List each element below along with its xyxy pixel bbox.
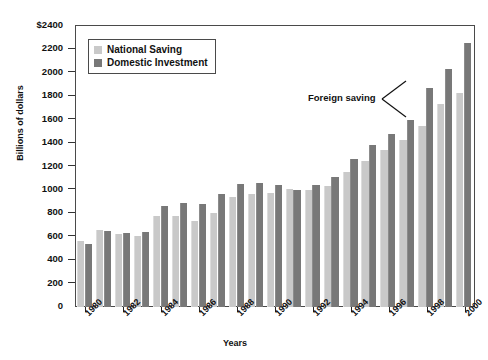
y-axis-tick-label: 1600 [42,113,63,125]
bar [153,216,160,307]
y-axis-tick-mark [68,235,75,236]
y-axis-tick-label: 600 [47,230,63,242]
bar-group [303,26,322,307]
bar [388,134,395,307]
y-axis-tick: 1600 [0,113,75,125]
y-axis-tick-mark [68,165,75,166]
annotation-foreign-saving: Foreign saving [308,92,376,103]
legend-label: National Saving [107,44,182,55]
y-axis-tick-label: $2400 [37,19,63,31]
bar [256,183,263,307]
bar [312,185,319,307]
y-axis-tick-mark [68,95,75,96]
bar [96,230,103,307]
bar [161,206,168,307]
bar [407,120,414,307]
y-axis-tick: 2000 [0,66,75,78]
y-axis-tick: 800 [0,206,75,218]
bar [418,126,425,307]
bar [210,213,217,307]
y-axis-tick-label: 1200 [42,160,63,172]
bar-group [247,26,266,307]
bar [350,159,357,307]
y-axis-tick: $2400 [0,19,75,31]
bar [286,189,293,307]
bar-group [436,26,455,307]
y-axis-tick: 2200 [0,42,75,54]
bar [267,193,274,307]
y-axis-tick: 1800 [0,89,75,101]
bar [172,216,179,307]
bar [237,184,244,307]
bar-group [341,26,360,307]
bar [180,203,187,307]
bar [229,197,236,307]
y-axis-tick-mark [68,282,75,283]
y-axis-tick-label: 2000 [42,66,63,78]
bar [218,194,225,307]
bar [199,204,206,307]
bar [464,43,471,307]
y-axis-tick: 200 [0,277,75,289]
bar [142,232,149,307]
y-axis-tick: 600 [0,230,75,242]
bar [380,150,387,307]
y-axis-tick-label: 1400 [42,136,63,148]
y-axis-tick-label: 1000 [42,183,63,195]
chart-legend: National Saving Domestic Investment [88,39,216,74]
legend-item-domestic-investment: Domestic Investment [94,56,208,69]
bar-group [360,26,379,307]
y-axis-tick-label: 0 [58,300,63,312]
legend-item-national-saving: National Saving [94,43,208,56]
bar [305,190,312,307]
y-axis-tick-mark [68,212,75,213]
y-axis-tick: 1200 [0,160,75,172]
bar [191,221,198,307]
bar [324,186,331,307]
y-axis-tick: 1400 [0,136,75,148]
legend-swatch-icon [94,59,102,67]
bar-group [322,26,341,307]
y-axis-tick-label: 1800 [42,89,63,101]
bar-group [284,26,303,307]
y-axis-tick: 1000 [0,183,75,195]
bar [275,185,282,307]
y-axis-tick: 400 [0,253,75,265]
y-axis-tick-label: 2200 [42,42,63,54]
bar-group [379,26,398,307]
bar [77,241,84,307]
bar [369,145,376,307]
y-axis-tick-mark [68,259,75,260]
bar-group [417,26,436,307]
bar [123,233,130,307]
x-axis-title: Years [175,338,295,348]
legend-swatch-icon [94,46,102,54]
y-axis-tick: 0 [0,300,75,312]
y-axis-tick-mark [68,48,75,49]
bar-group [455,26,474,307]
legend-label: Domestic Investment [107,57,208,68]
y-axis-tick-label: 800 [47,206,63,218]
bar [361,161,368,307]
bar [445,69,452,307]
bar-group [266,26,285,307]
bar [437,104,444,307]
bar [399,140,406,307]
bar [293,190,300,307]
y-axis-tick-mark [68,188,75,189]
bar [104,231,111,307]
y-axis-tick-mark [68,71,75,72]
y-axis-tick-label: 200 [47,277,63,289]
bar [426,88,433,307]
bar [115,234,122,307]
annotation-bracket-icon [381,80,407,118]
y-axis-tick-mark [68,142,75,143]
y-axis-tick-label: 400 [47,253,63,265]
bar [343,172,350,307]
bar [85,244,92,307]
bar-group [228,26,247,307]
bar [248,194,255,307]
bar-chart: Billions of dollars 02004006008001000120… [0,0,488,360]
bar [456,93,463,307]
bar-group [398,26,417,307]
